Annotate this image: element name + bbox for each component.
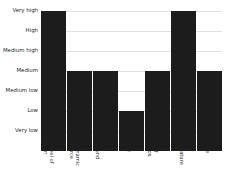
plot-area (41, 11, 222, 151)
x-tick-label-line2: speed (198, 132, 204, 174)
x-tick-slot: Aerodynamic downforce (67, 151, 92, 193)
x-tick-slot: Tyre compound (93, 151, 118, 193)
bar[interactable] (41, 11, 66, 151)
x-axis: Grip level of abrasion Aerodynamic downf… (41, 151, 222, 193)
y-tick-label: Low (0, 108, 38, 113)
x-tick-label-line1: Tyre (101, 132, 107, 143)
x-tick-slot: Average speed (197, 151, 222, 193)
x-tick-label: Temperature range (172, 132, 183, 174)
y-tick-label: High (0, 28, 38, 33)
bar-slot (145, 11, 170, 151)
y-tick-label: Very high (0, 8, 38, 13)
x-tick-slot: Level of tortuosos (145, 151, 170, 193)
x-tick-label-line2: compound (94, 132, 100, 174)
x-tick-label: Grip level of abrasion (42, 132, 53, 174)
y-tick-label: Medium high (0, 48, 38, 53)
x-tick-label-line1: Temperature (179, 132, 185, 165)
y-tick-label: Medium low (0, 88, 38, 93)
bar-slot (41, 11, 66, 151)
x-tick-label-line1: Aerodynamic (75, 132, 81, 166)
x-tick-label-line2: range (172, 132, 178, 174)
x-tick-label: Level of tortuosos (146, 132, 157, 174)
y-tick-label: Very low (0, 128, 38, 133)
bar-slot (197, 11, 222, 151)
x-tick-slot: Temperature range (171, 151, 196, 193)
x-tick-label-line1: Average (205, 132, 211, 153)
bar-slot (67, 11, 92, 151)
bar-chart: Very high High Medium high Medium Medium… (0, 0, 227, 193)
x-tick-label-line1: Level of (153, 132, 159, 152)
bar-slot (93, 11, 118, 151)
x-tick-label: Aerodynamic downforce (68, 132, 79, 174)
x-tick-label: Average speed (198, 132, 209, 174)
y-axis: Very high High Medium high Medium Medium… (0, 11, 38, 151)
x-tick-label: Tyre compound (94, 132, 105, 174)
x-tick-slot: Grip level of abrasion (41, 151, 66, 193)
x-tick-label: Braking (126, 132, 132, 174)
x-tick-label-line2: tortuosos (146, 132, 152, 174)
y-tick-label: Medium (0, 68, 38, 73)
x-tick-label-line1: Braking (127, 132, 133, 152)
x-tick-label-line2: downforce (68, 132, 74, 174)
bar-series (41, 11, 222, 151)
bar-slot (171, 11, 196, 151)
x-tick-label-line2: abrasion (42, 132, 48, 174)
bar-slot (119, 11, 144, 151)
x-tick-label-line1: Grip level of (49, 132, 55, 164)
x-tick-slot: Braking (119, 151, 144, 193)
bar[interactable] (171, 11, 196, 151)
